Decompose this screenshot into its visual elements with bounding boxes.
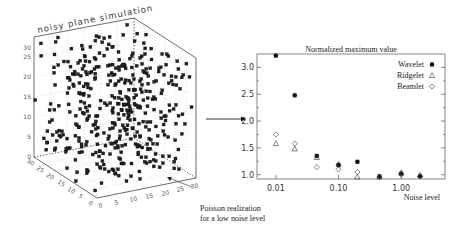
svg-text:2.5: 2.5 — [241, 90, 254, 99]
svg-text:20: 20 — [23, 73, 31, 80]
chart-title: Normalized maximum value — [305, 45, 397, 54]
svg-text:25: 25 — [23, 53, 31, 60]
poisson-points — [34, 23, 193, 192]
normalized-max-chart: Normalized maximum value 1.01.52.02.53.0… — [241, 45, 445, 202]
svg-text:10: 10 — [66, 185, 76, 195]
svg-text:20: 20 — [45, 171, 55, 181]
svg-text:0.01: 0.01 — [267, 184, 285, 193]
legend-beamlet: Beamlet — [397, 82, 424, 91]
svg-text:10: 10 — [129, 195, 138, 203]
svg-text:30: 30 — [190, 182, 199, 190]
svg-text:1.5: 1.5 — [241, 144, 254, 153]
svg-text:5: 5 — [27, 133, 31, 140]
y-axis-labels: 0 5 10 15 20 25 30 — [25, 157, 94, 207]
svg-text:15: 15 — [56, 178, 66, 188]
svg-text:20: 20 — [161, 189, 170, 197]
svg-text:1.0: 1.0 — [241, 171, 254, 180]
annotation-line1: Poisson realization — [200, 204, 261, 213]
svg-text:15: 15 — [23, 93, 31, 100]
legend: Wavelet Ridgelet Beamlet — [397, 60, 435, 91]
svg-text:5: 5 — [77, 192, 84, 200]
plot3d-title: noisy plane simulation — [36, 3, 153, 35]
svg-text:30: 30 — [23, 44, 31, 51]
noisy-plane-3d-plot: noisy plane simulation 0 5 10 15 20 25 3… — [23, 3, 198, 209]
figure-canvas: noisy plane simulation 0 5 10 15 20 25 3… — [0, 0, 467, 230]
x-axis-label: Noise level — [404, 193, 441, 202]
legend-wavelet: Wavelet — [398, 60, 425, 69]
svg-text:0: 0 — [87, 199, 94, 207]
svg-text:15: 15 — [145, 192, 154, 200]
z-axis-labels: 0 5 10 15 20 25 30 — [23, 44, 31, 160]
legend-ridgelet: Ridgelet — [397, 71, 425, 80]
svg-text:2.0: 2.0 — [241, 117, 254, 126]
svg-text:0.10: 0.10 — [330, 184, 348, 193]
svg-text:5: 5 — [114, 198, 119, 206]
svg-text:3.0: 3.0 — [241, 63, 254, 72]
svg-text:0: 0 — [98, 201, 103, 209]
y-axis: 1.01.52.02.53.0 — [241, 63, 445, 179]
annotation-line2: for a low noise level — [200, 214, 266, 223]
x-axis: 0.010.101.00 — [267, 175, 410, 193]
svg-text:25: 25 — [176, 185, 185, 193]
svg-text:10: 10 — [23, 113, 31, 120]
svg-text:1.00: 1.00 — [392, 184, 410, 193]
svg-text:25: 25 — [35, 164, 45, 174]
connector-arrow — [206, 117, 246, 122]
